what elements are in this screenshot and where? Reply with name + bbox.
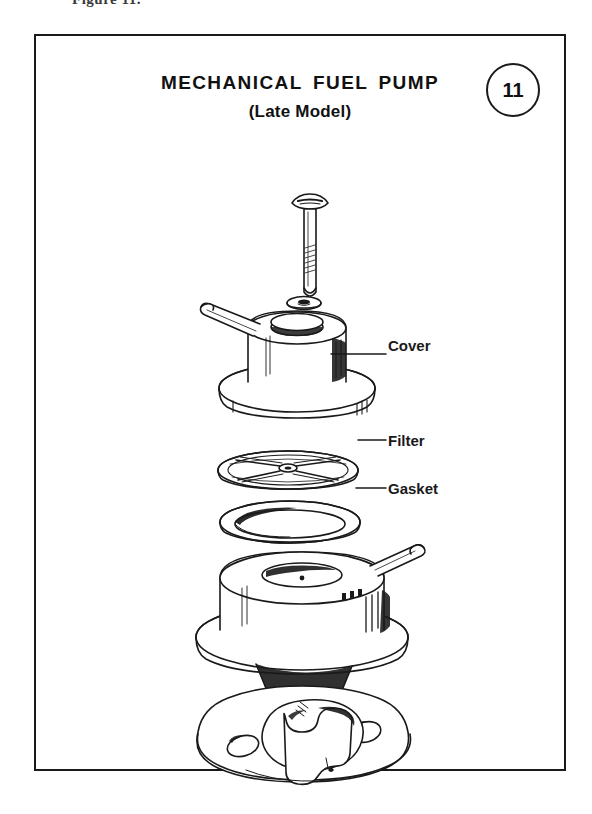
fuel-filter-screen-illustration xyxy=(218,451,358,489)
figure-number-badge-value: 11 xyxy=(502,80,523,100)
pump-cover-illustration xyxy=(201,303,376,418)
pump-body-illustration xyxy=(196,545,425,674)
callout-label-gasket: Gasket xyxy=(388,480,438,497)
callout-leader-lines xyxy=(331,354,386,488)
figure-subtitle: (Late Model) xyxy=(36,102,564,122)
exploded-view-drawing xyxy=(70,70,592,807)
page-caption: Figure 11. xyxy=(72,0,141,8)
cover-screw-illustration xyxy=(292,194,328,296)
figure-title: MECHANICAL FUEL PUMP xyxy=(36,72,564,94)
figure-frame: MECHANICAL FUEL PUMP (Late Model) 11 xyxy=(34,34,566,771)
callout-label-filter: Filter xyxy=(388,432,425,449)
screw-washer-illustration xyxy=(287,297,321,310)
mounting-flange-rocker-arm-illustration xyxy=(197,664,411,784)
cover-gasket-illustration xyxy=(220,501,360,543)
figure-number-badge: 11 xyxy=(486,63,540,117)
callout-label-cover: Cover xyxy=(388,337,431,354)
